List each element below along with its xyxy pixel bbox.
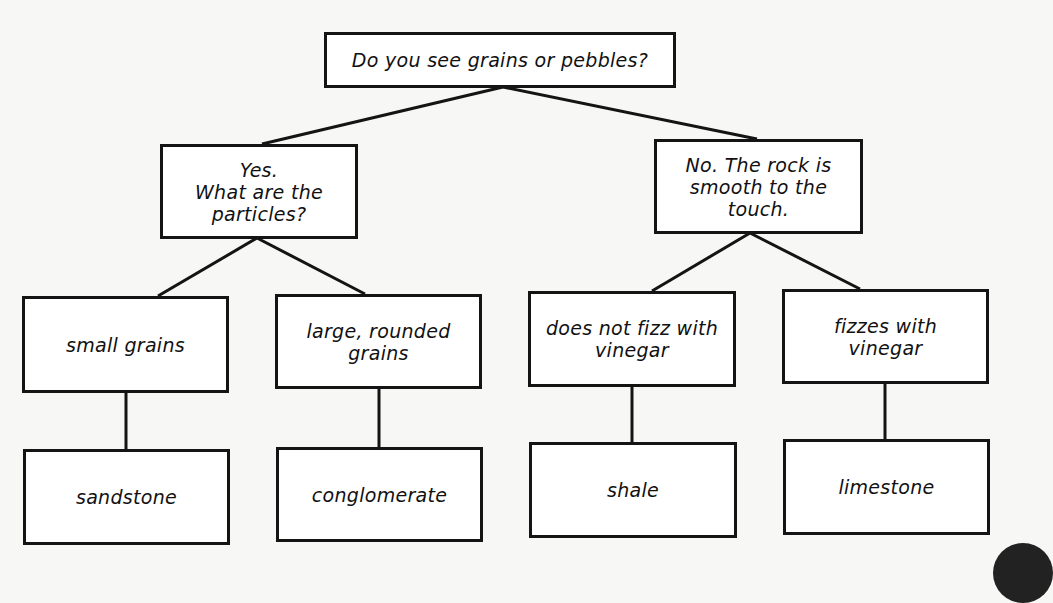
large-grains-node: large, rounded grains <box>275 294 482 389</box>
yes-branch-node: Yes. What are the particles? <box>160 144 358 239</box>
shale-node: shale <box>529 442 737 538</box>
no-branch-node: No. The rock is smooth to the touch. <box>654 139 863 234</box>
no-fizz-node: does not fizz with vinegar <box>528 291 736 387</box>
root-question-node: Do you see grains or pebbles? <box>324 32 676 88</box>
small-grains-node: small grains <box>22 296 229 393</box>
sandstone-node: sandstone <box>23 449 230 545</box>
limestone-node: limestone <box>783 439 990 535</box>
page-corner-shadow <box>993 543 1053 603</box>
fizz-node: fizzes with vinegar <box>782 289 989 384</box>
conglomerate-node: conglomerate <box>276 447 483 542</box>
